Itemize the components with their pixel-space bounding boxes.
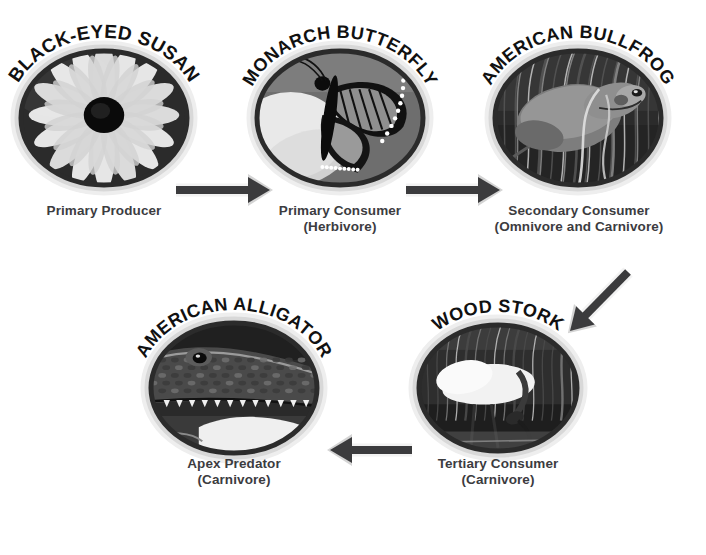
trophic-role-label: Secondary Consumer bbox=[508, 203, 649, 218]
trophic-role-label: Apex Predator bbox=[187, 456, 281, 471]
arrow-head bbox=[478, 177, 500, 203]
arrow-shaft bbox=[584, 272, 628, 317]
arrow-arrow-butterfly-to-bullfrog bbox=[384, 168, 522, 212]
trophic-role-label: Primary Producer bbox=[47, 203, 162, 218]
arrow-arrow-bullfrog-to-stork bbox=[548, 250, 650, 353]
trophic-role-label: Tertiary Consumer bbox=[438, 456, 559, 471]
food-chain-diagram: BLACK-EYED SUSANPrimary ProducerMONARCH … bbox=[0, 0, 706, 555]
trophic-role-detail-label: (Carnivore) bbox=[144, 472, 324, 488]
arrow-head bbox=[330, 437, 352, 463]
arrow-arrow-stork-to-alligator bbox=[308, 428, 434, 472]
trophic-role-label: Primary Consumer bbox=[279, 203, 401, 218]
node-caption-wood-stork: Tertiary Consumer(Carnivore) bbox=[408, 456, 588, 487]
trophic-role-detail-label: (Omnivore and Carnivore) bbox=[468, 219, 690, 235]
arrow-head bbox=[248, 177, 270, 203]
node-caption-american-alligator: Apex Predator(Carnivore) bbox=[144, 456, 324, 487]
trophic-role-detail-label: (Herbivore) bbox=[250, 219, 430, 235]
arrow-arrow-susan-to-butterfly bbox=[154, 168, 292, 212]
trophic-role-detail-label: (Carnivore) bbox=[408, 472, 588, 488]
